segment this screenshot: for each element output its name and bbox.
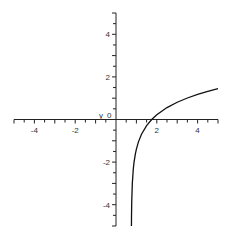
x-tick-label: 2 xyxy=(155,126,160,135)
function-curve xyxy=(131,89,218,226)
x-tick-label: 4 xyxy=(195,126,200,135)
y-tick-label: 4 xyxy=(106,30,111,39)
y-axis-label: y xyxy=(99,111,103,120)
y-tick-label: -2 xyxy=(103,158,111,167)
x-tick-label: -2 xyxy=(72,126,80,135)
origin-label: 0 xyxy=(107,111,112,120)
y-tick-label: 2 xyxy=(106,73,111,82)
x-tick-label: -4 xyxy=(31,126,39,135)
y-tick-label: -4 xyxy=(103,201,111,210)
function-plot: -4-224-4-224 y 0 xyxy=(0,0,232,238)
